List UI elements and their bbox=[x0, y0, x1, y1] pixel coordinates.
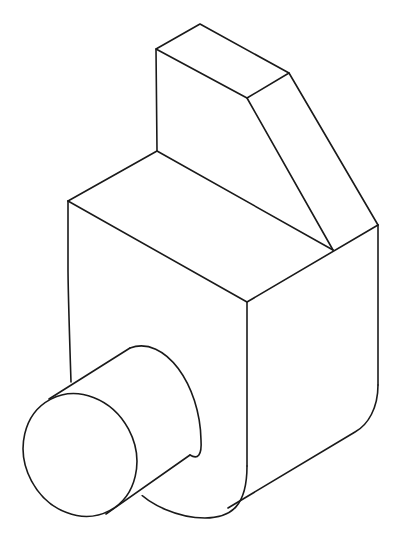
base-left-vertical-edge bbox=[68, 201, 71, 382]
isometric-part-drawing bbox=[0, 0, 408, 546]
base-top-front-edge bbox=[68, 201, 378, 302]
upright-slope-right-edge bbox=[289, 73, 378, 225]
upright-block bbox=[156, 24, 378, 250]
upright-left-edge bbox=[156, 49, 157, 151]
base-top-back-edge bbox=[68, 151, 333, 250]
upright-slope-left-edge bbox=[247, 98, 333, 250]
upright-top-face bbox=[156, 24, 289, 98]
cylinder-boss bbox=[2, 346, 201, 537]
base-right-rounded-bottom bbox=[228, 385, 378, 508]
